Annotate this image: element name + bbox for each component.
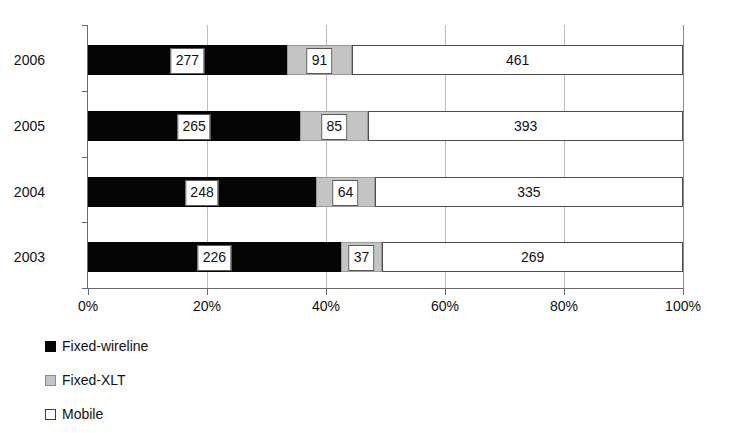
legend-swatch-gray-icon xyxy=(45,375,56,386)
bar-row[interactable]: 27791461 xyxy=(88,45,683,75)
bar-value-label: 85 xyxy=(321,114,347,140)
stacked-bar-chart: 27791461265853932486433522637269 2006200… xyxy=(0,0,735,433)
legend-item-mobile[interactable]: Mobile xyxy=(45,402,148,426)
y-axis-category-label: 2006 xyxy=(0,53,45,67)
legend-item-wireline[interactable]: Fixed-wireline xyxy=(45,334,148,358)
y-axis-category-label: 2003 xyxy=(0,250,45,264)
legend-swatch-white-icon xyxy=(45,409,56,420)
gridline-100 xyxy=(683,25,684,288)
bar-row[interactable]: 24864335 xyxy=(88,177,683,207)
bar-row[interactable]: 26585393 xyxy=(88,111,683,141)
bar-value-label: 248 xyxy=(185,180,218,206)
bar-value-label: 64 xyxy=(333,180,359,206)
x-tick-label: 80% xyxy=(550,298,578,314)
x-tick-label: 0% xyxy=(78,298,98,314)
bar-value-label: 226 xyxy=(198,245,231,271)
bar-row[interactable]: 22637269 xyxy=(88,242,683,272)
x-tick-label: 60% xyxy=(431,298,459,314)
bar-value-label: 277 xyxy=(171,48,204,74)
x-tick-40 xyxy=(326,289,327,295)
y-tick xyxy=(82,222,87,223)
legend-label: Mobile xyxy=(62,406,103,422)
bar-value-label: 37 xyxy=(349,245,375,271)
y-tick xyxy=(82,157,87,158)
x-tick-label: 40% xyxy=(312,298,340,314)
x-axis-line xyxy=(87,288,684,289)
legend-swatch-black-icon xyxy=(45,341,56,352)
bar-value-label: 335 xyxy=(513,181,544,205)
y-tick xyxy=(82,25,87,26)
bar-value-label: 393 xyxy=(510,115,541,139)
legend-label: Fixed-XLT xyxy=(62,372,126,388)
y-tick xyxy=(82,91,87,92)
bar-value-label: 461 xyxy=(502,49,533,73)
legend-label: Fixed-wireline xyxy=(62,338,148,354)
x-tick-60 xyxy=(445,289,446,295)
x-tick-label: 20% xyxy=(193,298,221,314)
y-axis-category-label: 2004 xyxy=(0,185,45,199)
x-tick-100 xyxy=(683,289,684,295)
y-tick xyxy=(82,288,87,289)
plot-area: 27791461265853932486433522637269 xyxy=(88,25,683,288)
x-tick-20 xyxy=(207,289,208,295)
bar-value-label: 269 xyxy=(517,246,548,270)
legend-item-xlt[interactable]: Fixed-XLT xyxy=(45,368,148,392)
bar-value-label: 91 xyxy=(307,48,333,74)
y-axis-category-label: 2005 xyxy=(0,119,45,133)
x-tick-80 xyxy=(564,289,565,295)
chart-legend: Fixed-wirelineFixed-XLTMobile xyxy=(45,334,148,426)
x-tick-0 xyxy=(88,289,89,295)
bar-value-label: 265 xyxy=(177,114,210,140)
x-tick-label: 100% xyxy=(665,298,701,314)
